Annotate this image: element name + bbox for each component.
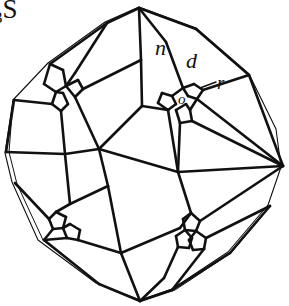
face-label-o: o [178,92,186,107]
face-label-n: n [155,37,166,59]
crystal-figure: 3S n d o r [0,0,289,306]
crystal-edges [6,8,283,301]
chemical-formula: 3S [0,0,18,26]
face-label-r: r [217,73,224,92]
formula-element: S [3,0,18,24]
crystal-drawing [0,0,289,306]
face-label-d: d [186,50,197,72]
